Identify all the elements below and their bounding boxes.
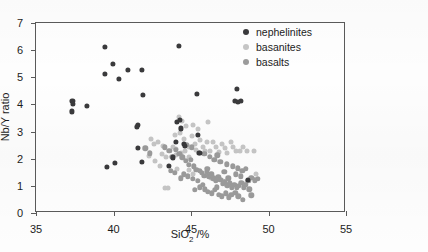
data-point-basanites	[153, 158, 158, 163]
data-point-basalts	[238, 174, 243, 179]
data-point-nephelinites	[102, 44, 107, 49]
y-tick-label-3: 3	[17, 126, 23, 138]
data-point-nephelinites	[136, 145, 141, 150]
data-point-nephelinites	[238, 99, 243, 104]
data-point-nephelinites	[195, 91, 200, 96]
x-axis-label: SiO2 /%	[171, 228, 210, 243]
y-tick-7: 7	[31, 23, 36, 24]
data-point-basalts	[240, 197, 245, 202]
data-point-nephelinites	[70, 109, 75, 114]
data-point-basanites	[195, 126, 200, 131]
data-point-nephelinites	[126, 67, 131, 72]
data-point-nephelinites	[234, 86, 239, 91]
x-tick-label-40: 40	[107, 223, 119, 235]
data-point-basalts	[243, 166, 248, 171]
legend: nephelinites basanites basalts	[243, 24, 312, 69]
y-tick-label-6: 6	[17, 44, 23, 56]
y-tick-2: 2	[31, 159, 36, 160]
x-tick-label-35: 35	[30, 223, 42, 235]
x-tick-label-55: 55	[340, 223, 352, 235]
x-tick-45: 45	[191, 211, 192, 216]
data-point-basanites	[198, 137, 203, 142]
data-point-basalts	[192, 187, 197, 192]
legend-item-nephelinites: nephelinites	[243, 24, 312, 39]
x-tick-label-50: 50	[262, 223, 274, 235]
legend-label-nephelinites: nephelinites	[256, 26, 312, 38]
y-tick-4: 4	[31, 104, 36, 105]
data-point-nephelinites	[140, 67, 145, 72]
data-point-basanites	[158, 163, 163, 168]
data-point-basalts	[218, 159, 223, 164]
data-point-basalts	[249, 193, 254, 198]
y-tick-label-2: 2	[17, 153, 23, 165]
x-tick-55: 55	[346, 211, 347, 216]
data-point-basanites	[251, 148, 256, 153]
data-point-nephelinites	[140, 159, 145, 164]
data-point-basanites	[189, 134, 194, 139]
data-point-nephelinites	[110, 62, 115, 67]
data-point-basanites	[165, 185, 170, 190]
x-tick-35: 35	[36, 211, 37, 216]
data-point-nephelinites	[176, 43, 181, 48]
y-tick-label-1: 1	[17, 180, 23, 192]
y-axis-label: Nb/Y ratio	[0, 93, 11, 142]
x-tick-40: 40	[114, 211, 115, 216]
data-point-basalts	[147, 151, 152, 156]
data-point-nephelinites	[171, 155, 176, 160]
y-tick-1: 1	[31, 186, 36, 187]
data-point-nephelinites	[70, 101, 75, 106]
data-point-nephelinites	[178, 126, 183, 131]
data-point-basalts	[222, 169, 227, 174]
legend-marker-nephelinites	[243, 29, 249, 35]
data-point-nephelinites	[140, 93, 145, 98]
data-point-basanites	[205, 139, 210, 144]
data-point-basalts	[167, 148, 172, 153]
data-point-nephelinites	[174, 119, 179, 124]
data-point-nephelinites	[112, 160, 117, 165]
data-point-nephelinites	[85, 103, 90, 108]
data-point-nephelinites	[104, 165, 109, 170]
data-point-basanites	[172, 132, 177, 137]
data-point-nephelinites	[116, 77, 121, 82]
data-point-basanites	[244, 149, 249, 154]
data-point-nephelinites	[174, 139, 179, 144]
y-tick-label-0: 0	[17, 207, 23, 219]
data-point-nephelinites	[102, 71, 107, 76]
data-point-basalts	[178, 176, 183, 181]
data-point-basalts	[224, 161, 229, 166]
legend-label-basanites: basanites	[256, 41, 301, 53]
data-point-basalts	[215, 153, 220, 158]
x-tick-50: 50	[269, 211, 270, 216]
legend-marker-basalts	[243, 59, 249, 65]
data-point-basanites	[178, 130, 183, 135]
data-point-basanites	[206, 120, 211, 125]
data-point-basanites	[190, 122, 195, 127]
data-point-basalts	[246, 186, 251, 191]
y-tick-6: 6	[31, 50, 36, 51]
y-tick-label-7: 7	[17, 17, 23, 29]
y-tick-3: 3	[31, 132, 36, 133]
data-point-basalts	[188, 157, 193, 162]
y-tick-5: 5	[31, 77, 36, 78]
data-point-basalts	[214, 185, 219, 190]
figure-canvas: 012345673540455055 Nb/Y ratio SiO2 /% ne…	[0, 0, 428, 252]
y-tick-label-5: 5	[17, 71, 23, 83]
data-point-nephelinites	[134, 124, 139, 129]
data-point-basanites	[164, 155, 169, 160]
data-point-basalts	[212, 157, 217, 162]
x-axis-label-main: SiO	[171, 228, 189, 240]
data-point-basanites	[237, 149, 242, 154]
legend-item-basanites: basanites	[243, 39, 312, 54]
data-point-basanites	[225, 151, 230, 156]
legend-marker-basanites	[243, 44, 249, 50]
data-point-basanites	[228, 139, 233, 144]
data-point-basalts	[255, 176, 260, 181]
data-point-basanites	[184, 123, 189, 128]
x-axis-label-tail: /%	[193, 228, 209, 240]
legend-item-basalts: basalts	[243, 54, 312, 69]
y-tick-label-4: 4	[17, 98, 23, 110]
legend-label-basalts: basalts	[256, 56, 289, 68]
